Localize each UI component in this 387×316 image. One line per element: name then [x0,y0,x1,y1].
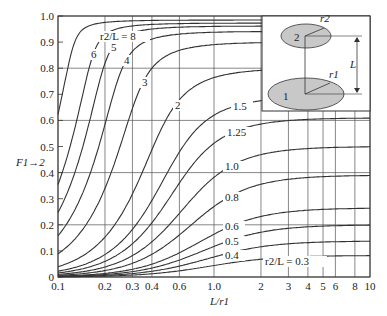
svg-text:r2: r2 [320,12,330,24]
svg-text:0.8: 0.8 [40,62,54,74]
svg-text:0.2: 0.2 [40,219,54,231]
curve-label-0.3: r2/L = 0.3 [265,255,309,267]
svg-text:0.1: 0.1 [40,245,54,257]
svg-text:0.6: 0.6 [173,280,187,292]
curve-label-8: r2/L = 8 [100,30,136,42]
svg-text:1.0: 1.0 [207,280,221,292]
svg-text:2: 2 [258,280,264,292]
y-axis-label: F1→2 [15,156,45,168]
view-factor-chart: 0.10.20.30.40.61.02345681000.10.20.30.40… [0,0,387,316]
svg-text:0.2: 0.2 [98,280,112,292]
svg-text:0.3: 0.3 [126,280,140,292]
curve-label-3: 3 [142,76,148,88]
curve-label-0.6: 0.6 [225,220,239,232]
curve-label-1.25: 1.25 [227,126,247,138]
svg-text:4: 4 [305,280,311,292]
inset-diagram: 2 1 r2 r1 L [262,12,370,111]
svg-text:0.5: 0.5 [40,141,54,153]
svg-text:3: 3 [286,280,292,292]
svg-text:L: L [349,58,356,70]
curve-label-6: 6 [91,48,97,60]
svg-text:1.0: 1.0 [40,10,54,22]
svg-text:0.3: 0.3 [40,193,54,205]
svg-text:r1: r1 [329,68,339,80]
curve-label-0.5: 0.5 [225,235,239,247]
curve-label-1.0: 1.0 [225,160,239,172]
svg-text:2: 2 [294,31,300,43]
svg-text:1: 1 [283,90,289,102]
curve-label-0.8: 0.8 [225,191,239,203]
curve-label-1.5: 1.5 [233,100,247,112]
svg-text:0.7: 0.7 [40,88,54,100]
svg-text:0.6: 0.6 [40,114,54,126]
svg-text:0: 0 [49,271,55,283]
svg-text:0.4: 0.4 [145,280,159,292]
svg-text:0.4: 0.4 [40,167,54,179]
svg-text:6: 6 [333,280,339,292]
svg-text:8: 8 [352,280,358,292]
x-axis-label: L/r1 [209,295,229,307]
svg-text:0.9: 0.9 [40,36,54,48]
svg-text:5: 5 [320,280,326,292]
curve-label-5: 5 [111,41,117,53]
curve-label-4: 4 [124,54,130,66]
svg-text:10: 10 [365,280,377,292]
curve-label-2: 2 [175,99,181,111]
curve-label-0.4: 0.4 [225,249,239,261]
